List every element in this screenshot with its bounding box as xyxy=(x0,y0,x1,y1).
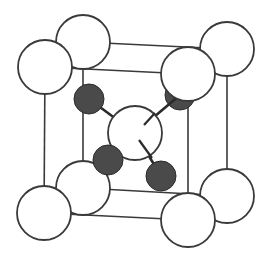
corner-front-bottom-left xyxy=(17,186,71,240)
corner-front-top-right xyxy=(161,47,215,101)
corner-front-top-left xyxy=(18,40,72,94)
corner-front-bottom-right xyxy=(161,193,215,247)
unit-cell-diagram xyxy=(0,0,269,269)
tetrahedral-atom-upper-left xyxy=(74,84,104,114)
tetrahedral-atom-lower-left xyxy=(93,145,123,175)
tetrahedral-atom-lower-right xyxy=(146,161,176,191)
